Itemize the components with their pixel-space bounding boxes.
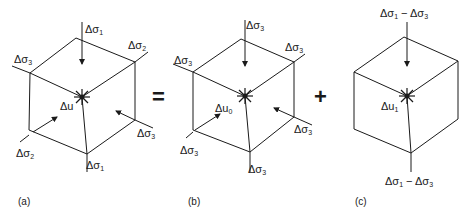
- plus-operator: +: [314, 86, 327, 108]
- label-b-top: Δσ3: [246, 20, 264, 32]
- label-c-top: Δσ1 − Δσ3: [380, 8, 428, 20]
- label-b-bottom: Δσ3: [248, 164, 266, 176]
- label-a-lower-left: Δσ2: [16, 148, 34, 160]
- label-b-lower-right: Δσ3: [294, 124, 312, 136]
- label-b-upper-left: Δσ3: [174, 55, 192, 67]
- label-a-upper-left: Δσ3: [14, 54, 32, 66]
- label-a-lower-right: Δσ3: [137, 128, 155, 140]
- label-b-upper-right: Δσ3: [285, 42, 303, 54]
- label-b-pore-pressure: Δu0: [215, 103, 232, 115]
- caption-b: (b): [188, 196, 200, 207]
- label-c-bottom: Δσ1 − Δσ3: [385, 176, 433, 188]
- equals-operator: =: [152, 86, 165, 108]
- label-a-upper-right: Δσ2: [128, 40, 146, 52]
- caption-a: (a): [18, 196, 30, 207]
- label-a-bottom: Δσ1: [86, 160, 104, 172]
- label-a-top: Δσ1: [85, 24, 103, 36]
- label-a-pore-pressure: Δu: [60, 101, 73, 112]
- caption-c: (c): [355, 196, 367, 207]
- label-b-lower-left: Δσ3: [180, 145, 198, 157]
- label-c-pore-pressure: Δu1: [381, 101, 398, 113]
